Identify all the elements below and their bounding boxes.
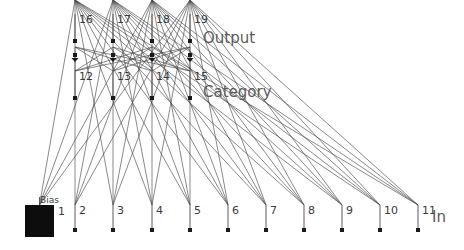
edge-input-category bbox=[40, 0, 153, 205]
edge-input-category bbox=[113, 0, 418, 205]
node-label-16: 16 bbox=[79, 13, 93, 26]
node-label-5: 5 bbox=[194, 204, 201, 217]
bias-square bbox=[25, 205, 54, 237]
node-label-1: 1 bbox=[58, 205, 65, 218]
node-label-8: 8 bbox=[308, 204, 315, 217]
diagram-canvas: 1617181912131415234567891011 Bias1 Outpu… bbox=[0, 0, 464, 250]
node-marker bbox=[73, 96, 77, 100]
output-arrowheads bbox=[72, 53, 194, 62]
node-label-13: 13 bbox=[117, 70, 131, 83]
node-marker bbox=[150, 228, 154, 232]
node-marker bbox=[111, 228, 115, 232]
node-marker bbox=[111, 39, 115, 43]
layer-labels: OutputCategoryIn bbox=[203, 29, 446, 226]
layer-label-output: Output bbox=[203, 29, 255, 47]
arrow-square bbox=[73, 53, 77, 57]
node-label-10: 10 bbox=[384, 204, 398, 217]
edge-input-category bbox=[40, 0, 76, 205]
arrow-head-icon bbox=[72, 58, 79, 62]
node-label-18: 18 bbox=[156, 13, 170, 26]
node-label-15: 15 bbox=[194, 70, 208, 83]
arrow-square bbox=[111, 53, 115, 57]
node-marker bbox=[302, 228, 306, 232]
node-label-7: 7 bbox=[270, 204, 277, 217]
edge-input-category bbox=[152, 0, 418, 205]
node-marker bbox=[188, 228, 192, 232]
node-marker bbox=[188, 96, 192, 100]
node-marker bbox=[150, 96, 154, 100]
category-to-output-edges bbox=[75, 47, 190, 71]
node-label-9: 9 bbox=[346, 204, 353, 217]
node-label-6: 6 bbox=[232, 204, 239, 217]
node-marker bbox=[73, 228, 77, 232]
node-label-12: 12 bbox=[79, 70, 93, 83]
edge-input-category bbox=[75, 0, 304, 205]
node-marker bbox=[150, 39, 154, 43]
network-diagram: 1617181912131415234567891011 Bias1 Outpu… bbox=[0, 0, 464, 250]
node-marker bbox=[226, 228, 230, 232]
node-marker bbox=[188, 39, 192, 43]
layer-label-input: In bbox=[432, 208, 446, 226]
node-marker bbox=[264, 228, 268, 232]
node-markers bbox=[73, 39, 420, 232]
node-label-19: 19 bbox=[194, 13, 208, 26]
node-number-labels: 1617181912131415234567891011 bbox=[79, 13, 436, 217]
node-label-14: 14 bbox=[156, 70, 170, 83]
node-marker bbox=[111, 96, 115, 100]
node-marker bbox=[73, 39, 77, 43]
node-marker bbox=[378, 228, 382, 232]
node-marker bbox=[416, 228, 420, 232]
arrow-square bbox=[188, 53, 192, 57]
node-label-4: 4 bbox=[156, 204, 163, 217]
bias-node-group: Bias1 bbox=[25, 195, 65, 237]
node-label-2: 2 bbox=[79, 204, 86, 217]
node-label-3: 3 bbox=[117, 204, 124, 217]
bias-label: Bias bbox=[40, 195, 59, 205]
node-label-17: 17 bbox=[117, 13, 131, 26]
layer-label-category: Category bbox=[203, 83, 272, 101]
edge-input-category bbox=[40, 0, 114, 205]
node-marker bbox=[340, 228, 344, 232]
arrow-square bbox=[150, 53, 154, 57]
